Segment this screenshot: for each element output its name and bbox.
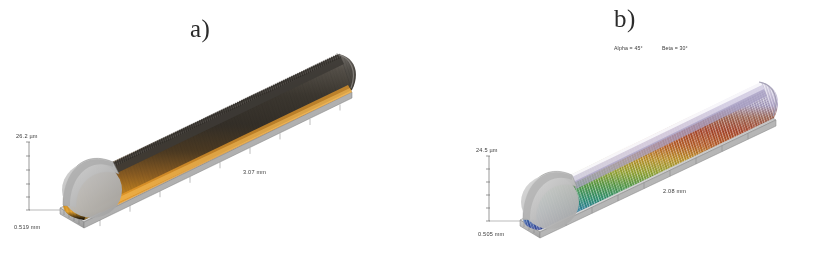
panel-a: a) xyxy=(0,0,416,257)
panel-a-dome-endcap-fill xyxy=(62,162,122,218)
panel-a-amber-band xyxy=(97,85,352,213)
panel-b-z-axis-label: 24.5 µm xyxy=(476,147,498,153)
panel-a-base-top xyxy=(60,78,352,222)
panel-b-right-endcap xyxy=(759,82,776,116)
panel-b-left-ticks xyxy=(524,222,534,233)
panel-b-base-front xyxy=(540,120,776,238)
panel-b-letter: b) xyxy=(614,6,636,31)
panel-a-base-ticks xyxy=(100,105,340,227)
panel-b-length-label: 2.08 mm xyxy=(663,188,686,194)
panel-b-texture-bands xyxy=(540,82,774,230)
panel-a-dome-endcap xyxy=(63,158,119,207)
panel-a-amber-highlight xyxy=(92,88,352,214)
panel-a-right-endcap xyxy=(336,54,353,88)
panel-a-z-axis-label: 26.2 µm xyxy=(16,133,38,139)
panel-a-face-tint xyxy=(84,54,352,220)
panel-b-texture-comb xyxy=(523,82,778,230)
panel-a-z-axis xyxy=(26,142,30,210)
panel-b-z-axis xyxy=(486,156,490,221)
panel-a-left-ticks xyxy=(64,210,79,224)
panel-b-crest xyxy=(570,82,765,183)
panel-b-crest-lavender xyxy=(573,89,767,189)
panel-b-dome-body xyxy=(523,82,778,230)
panel-a-texture-1 xyxy=(63,54,356,220)
panel-b-angle-annotation: Alpha = 45° Beta = 30° xyxy=(614,45,688,51)
panel-a-base-front xyxy=(84,92,352,228)
panel-b: b) Alpha = 45° Beta = 30° xyxy=(416,0,833,257)
panel-b-alpha-label: Alpha = 45° xyxy=(614,45,643,51)
panel-b-dome-endcap xyxy=(523,171,577,220)
panel-b-dome-endcap-fill xyxy=(521,175,579,229)
panel-b-width-label: 0.505 mm xyxy=(478,231,504,237)
panel-a-length-label: 3.07 mm xyxy=(243,169,266,175)
figure-root: a) xyxy=(0,0,833,257)
panel-a-crest xyxy=(112,54,344,173)
panel-a-dome-body xyxy=(63,54,356,220)
panel-b-surface-plot xyxy=(416,0,833,257)
panel-a-crest-fuzz xyxy=(112,53,341,167)
panel-a-texture-2 xyxy=(63,54,356,220)
panel-a-width-label: 0.519 mm xyxy=(14,224,40,230)
panel-b-base-top xyxy=(520,108,776,232)
panel-a-letter: a) xyxy=(190,16,210,41)
panel-b-beta-label: Beta = 30° xyxy=(662,45,688,51)
panel-b-crest-highlight xyxy=(569,81,762,178)
panel-b-base-ticks xyxy=(566,133,748,226)
panel-b-texture-comb2 xyxy=(523,82,778,230)
